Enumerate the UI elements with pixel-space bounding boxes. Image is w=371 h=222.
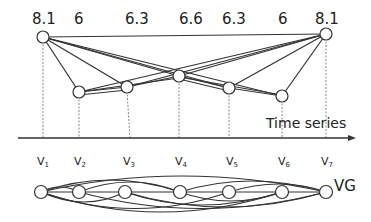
time-series-nodes [37,28,332,102]
vertex-label-6: V6 [278,155,291,169]
vertex-labels: V1 V2 V3 V4 V5 V6 V7 [37,155,333,169]
visibility-graph-diagram: 8.1 6 6.3 6.6 6.3 6 8.1 [0,0,371,222]
time-axis [18,135,356,141]
vg-node-7 [320,186,333,199]
ts-node-2 [73,86,85,98]
value-label-4: 6.6 [179,10,203,28]
vg-node-2 [73,186,86,199]
vertex-label-4: V4 [175,155,188,169]
value-label-6: 6 [278,10,288,28]
vg-nodes [35,186,333,199]
ts-node-6 [276,90,288,102]
ts-node-5 [223,82,235,94]
ts-node-7 [320,28,332,40]
arrow-icon [348,135,356,141]
vg-node-1 [35,186,48,199]
vertex-label-3: V3 [123,155,135,169]
vertex-label-2: V2 [74,155,86,169]
vertex-label-7: V7 [321,155,333,169]
vg-label: VG [334,177,356,195]
value-label-1: 8.1 [32,10,56,28]
value-label-2: 6 [74,10,84,28]
ts-node-4 [173,70,185,82]
value-label-7: 8.1 [315,10,339,28]
vg-node-4 [174,186,187,199]
ts-node-1 [37,31,49,43]
vertex-label-5: V5 [226,155,238,169]
vertex-label-1: V1 [37,155,49,169]
value-label-3: 6.3 [125,10,149,28]
vg-node-6 [276,186,289,199]
visibility-edges [43,34,326,96]
value-label-5: 6.3 [222,10,246,28]
ts-node-3 [121,81,133,93]
value-labels: 8.1 6 6.3 6.6 6.3 6 8.1 [32,10,339,28]
time-series-label: Time series [265,115,346,131]
vg-node-3 [119,186,132,199]
vg-node-5 [223,186,236,199]
